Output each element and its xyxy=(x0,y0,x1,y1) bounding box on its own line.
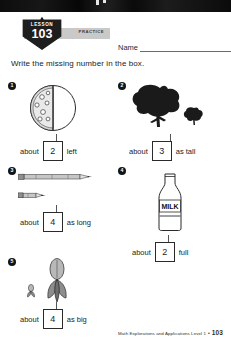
answer-box[interactable]: 4 xyxy=(43,309,63,329)
lesson-number-label: 103 xyxy=(20,27,64,41)
problem-number-badge: 2 xyxy=(118,82,126,90)
tree-large-icon xyxy=(130,82,188,136)
pointer-tick xyxy=(56,205,57,212)
problem-3: 3 about 4 as xyxy=(8,167,113,239)
problem-number-badge: 3 xyxy=(8,167,16,175)
worksheet-header: PRACTICE LESSON 103 Name xyxy=(0,16,231,50)
answer-suffix: left xyxy=(67,147,77,156)
problem-number-badge: 5 xyxy=(8,258,16,266)
milk-bottle-label: MILK xyxy=(161,203,178,210)
name-input-line[interactable] xyxy=(140,51,231,52)
answer-box[interactable]: 2 xyxy=(155,242,175,262)
problem-2: 2 about 3 as tall xyxy=(118,82,226,160)
scan-edge-band xyxy=(0,0,231,12)
answer-prefix: about xyxy=(20,218,39,227)
problem-1: 1 about 2 left xyxy=(8,82,113,160)
pencil-short-icon xyxy=(18,186,48,204)
leaf-small-icon xyxy=(24,284,38,302)
page-footer: Math Explorations and Applications Level… xyxy=(118,329,223,336)
answer-box[interactable]: 3 xyxy=(152,141,172,161)
lesson-badge: LESSON 103 xyxy=(20,16,64,50)
problem-4: 4 MILK about 2 full xyxy=(118,167,226,257)
pointer-tick xyxy=(168,235,169,242)
pointer-tick xyxy=(56,134,57,141)
name-label: Name xyxy=(118,43,138,52)
problem-number-badge: 4 xyxy=(118,167,126,175)
answer-box[interactable]: 2 xyxy=(43,141,63,161)
pointer-tick xyxy=(170,134,171,141)
pizza-half-topped-icon xyxy=(28,84,78,136)
milk-bottle-icon: MILK xyxy=(153,172,187,236)
tree-small-icon xyxy=(183,106,205,132)
answer-box[interactable]: 4 xyxy=(43,212,63,232)
answer-row-4: about 2 full xyxy=(132,242,188,262)
lesson-word-label: LESSON xyxy=(20,22,64,27)
answer-prefix: about xyxy=(129,147,148,156)
answer-suffix: as big xyxy=(67,315,87,324)
practice-label: PRACTICE xyxy=(79,29,104,34)
problem-5: 5 about 4 as big xyxy=(8,258,113,334)
pencil-long-icon xyxy=(18,168,94,186)
worksheet-page: PRACTICE LESSON 103 Name Write the missi… xyxy=(0,0,231,342)
pointer-tick xyxy=(56,302,57,309)
scan-edge-nick xyxy=(96,0,99,5)
footer-separator: • xyxy=(208,330,210,336)
answer-suffix: as long xyxy=(67,218,91,227)
answer-suffix: as tall xyxy=(176,147,196,156)
footer-source-label: Math Explorations and Applications Level… xyxy=(118,331,206,336)
scan-edge-nick xyxy=(103,0,106,3)
answer-prefix: about xyxy=(20,147,39,156)
answer-row-5: about 4 as big xyxy=(20,309,87,329)
answer-row-3: about 4 as long xyxy=(20,212,91,232)
directions-text: Write the missing number in the box. xyxy=(11,59,144,68)
footer-page-number: 103 xyxy=(212,329,223,336)
answer-prefix: about xyxy=(132,248,151,257)
answer-suffix: full xyxy=(179,248,189,257)
answer-prefix: about xyxy=(20,315,39,324)
problem-number-badge: 1 xyxy=(8,82,16,90)
leaf-large-icon xyxy=(40,258,74,310)
answer-row-2: about 3 as tall xyxy=(129,141,195,161)
answer-row-1: about 2 left xyxy=(20,141,77,161)
